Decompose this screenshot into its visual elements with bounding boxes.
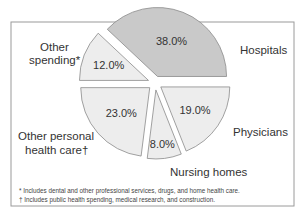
pct-label-hospitals: 38.0% (156, 35, 187, 47)
pct-label-physicians: 19.0% (179, 104, 210, 116)
footnote-1: * Includes dental and other professional… (19, 187, 240, 195)
label-other-personal-line2: health care† (25, 144, 88, 156)
label-other-personal-line1: Other personal (18, 130, 94, 142)
label-other-spending-line2: spending* (29, 54, 81, 66)
pct-label-other-spending: 12.0% (93, 59, 124, 71)
pie-slices: 38.0%19.0%8.0%23.0%12.0% (79, 7, 229, 158)
label-other-spending-line1: Other (40, 41, 69, 53)
footnote-2: † Includes public health spending, medic… (19, 196, 215, 204)
label-nursing-homes: Nursing homes (170, 166, 248, 178)
pct-label-nursing-homes: 8.0% (150, 138, 175, 150)
slice-other-personal-health-care (81, 88, 150, 156)
pct-label-other-personal-health-care: 23.0% (106, 107, 137, 119)
pie-chart: 38.0%19.0%8.0%23.0%12.0% Hospitals Physi… (0, 0, 305, 217)
label-physicians: Physicians (233, 126, 288, 138)
label-hospitals: Hospitals (240, 44, 288, 56)
